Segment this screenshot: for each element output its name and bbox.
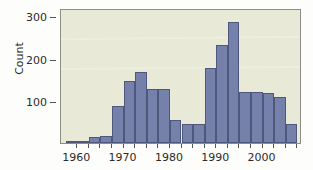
x-tick-mark (169, 144, 170, 148)
x-tick-mark (181, 144, 182, 148)
bar (124, 81, 136, 143)
y-tick-label: 100 (26, 95, 47, 108)
y-axis-title: Count (13, 24, 26, 94)
x-tick-mark (146, 144, 147, 148)
x-tick-mark (76, 144, 77, 148)
x-tick-mark (192, 144, 193, 148)
bar (263, 93, 275, 143)
bar (77, 141, 89, 143)
x-tick-mark (123, 144, 124, 148)
bar (66, 141, 78, 143)
bar (228, 22, 240, 143)
y-tick-mark (50, 17, 56, 18)
x-tick-mark (285, 144, 286, 148)
bar (147, 89, 159, 143)
bar (135, 72, 147, 143)
bar (216, 45, 228, 143)
x-tick-label: 1980 (155, 151, 183, 164)
bar-series (61, 10, 300, 143)
x-tick-mark (296, 144, 297, 148)
y-axis: Count 100200300 (0, 0, 60, 170)
x-tick-mark (238, 144, 239, 148)
x-tick-mark (227, 144, 228, 148)
bar (239, 92, 251, 143)
x-tick-label: 1970 (109, 151, 137, 164)
bar (251, 92, 263, 143)
x-axis: 19601970198019902000 (60, 144, 301, 170)
bar (193, 124, 205, 143)
bar (89, 137, 101, 143)
x-tick-mark (250, 144, 251, 148)
x-tick-mark (215, 144, 216, 148)
y-tick-mark (50, 102, 56, 103)
bar (158, 89, 170, 143)
chart-figure: Count 100200300 19601970198019902000 (0, 0, 313, 170)
x-tick-mark (99, 144, 100, 148)
bar (286, 124, 298, 143)
bar (205, 68, 217, 143)
x-tick-mark (273, 144, 274, 148)
x-tick-mark (157, 144, 158, 148)
bar (274, 97, 286, 143)
bar (112, 106, 124, 143)
bar (100, 136, 112, 143)
x-tick-label: 2000 (248, 151, 276, 164)
x-tick-label: 1990 (201, 151, 229, 164)
plot-area (60, 9, 301, 144)
y-tick-label: 200 (26, 53, 47, 66)
x-tick-label: 1960 (62, 151, 90, 164)
bar (182, 124, 194, 143)
x-tick-mark (262, 144, 263, 148)
x-tick-mark (134, 144, 135, 148)
bar (170, 120, 182, 143)
x-tick-mark (88, 144, 89, 148)
x-tick-mark (111, 144, 112, 148)
y-tick-mark (50, 60, 56, 61)
x-tick-mark (204, 144, 205, 148)
y-tick-label: 300 (26, 11, 47, 24)
